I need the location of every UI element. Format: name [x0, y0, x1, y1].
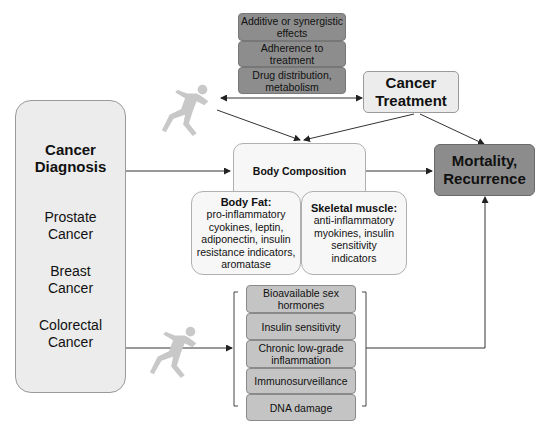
body-fat-line: cyokines, leptin,: [209, 221, 284, 234]
cancer-type-breast: Breast Cancer: [48, 263, 93, 297]
cancer-treatment-line1: Cancer: [386, 74, 437, 92]
mechanism-dna-damage: DNA damage: [246, 394, 356, 421]
cancer-treatment-box: Cancer Treatment: [363, 71, 459, 113]
skeletal-muscle-line: anti-inflammatory: [314, 214, 395, 227]
factor-adherence: Adherence to treatment: [238, 41, 346, 67]
body-fat-line: resistance indicators,: [197, 246, 296, 259]
factor-additive-effects: Additive or synergistic effects: [238, 13, 346, 41]
mechanism-sex-hormones: Bioavailable sex hormones: [246, 285, 356, 313]
body-fat-line: adiponectin, insulin: [201, 233, 290, 246]
body-fat-line: aromatase: [221, 258, 271, 271]
cancer-treatment-line2: Treatment: [375, 92, 447, 110]
runner-icon-bottom: [146, 322, 204, 380]
mechanism-insulin-sensitivity: Insulin sensitivity: [246, 313, 356, 340]
cancer-diagnosis-title: Cancer Diagnosis: [35, 141, 107, 175]
factor-drug-distribution: Drug distribution, metabolism: [238, 67, 346, 94]
skeletal-muscle-box: Skeletal muscle: anti-inflammatory myoki…: [301, 191, 407, 275]
skeletal-muscle-line: indicators: [332, 252, 377, 265]
body-fat-line: pro-inflammatory: [207, 208, 286, 221]
cancer-type-prostate: Prostate Cancer: [44, 209, 96, 243]
skeletal-muscle-line: myokines, insulin: [314, 227, 394, 240]
outcome-line1: Mortality,: [452, 152, 518, 170]
mechanism-immunosurveillance: Immunosurveillance: [246, 368, 356, 394]
body-composition-title: Body Composition: [253, 165, 346, 177]
skeletal-muscle-line: sensitivity: [331, 239, 377, 252]
mechanisms-stack: Bioavailable sex hormones Insulin sensit…: [246, 285, 356, 421]
treatment-factors-stack: Additive or synergistic effects Adherenc…: [238, 13, 346, 94]
runner-icon-top: [158, 80, 216, 138]
mechanism-inflammation: Chronic low-grade inflammation: [246, 340, 356, 368]
skeletal-muscle-title: Skeletal muscle:: [311, 202, 397, 215]
body-fat-box: Body Fat: pro-inflammatory cyokines, lep…: [191, 191, 301, 275]
cancer-diagnosis-box: Cancer Diagnosis Prostate Cancer Breast …: [15, 100, 126, 393]
mortality-recurrence-box: Mortality, Recurrence: [434, 144, 535, 196]
body-fat-title: Body Fat:: [221, 196, 272, 209]
cancer-type-colorectal: Colorectal Cancer: [39, 317, 102, 351]
outcome-line2: Recurrence: [443, 170, 526, 188]
